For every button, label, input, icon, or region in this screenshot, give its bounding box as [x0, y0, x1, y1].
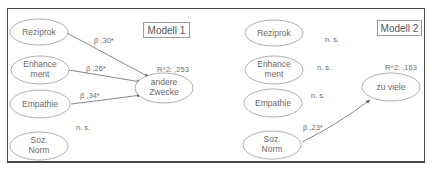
model-2-title: Modell 2 [377, 20, 422, 36]
path-diagram: Reziprok Enhance ment Empathie Soz. Norm… [0, 0, 433, 171]
svg-text:Soz.: Soz. [263, 134, 280, 144]
coef-enhancement: β ,26* [86, 64, 106, 73]
svg-text:ment: ment [265, 69, 285, 79]
svg-text:Reziprok: Reziprok [22, 27, 56, 37]
model-2: Reziprok Enhance ment Empathie Soz. Norm… [243, 20, 420, 159]
node-enhancement: Enhance ment [11, 56, 69, 84]
model-1-title: Modell 1 [143, 22, 190, 38]
arrow-soz-norm-to-zu-viele [302, 100, 370, 142]
node-zu-viele: zu viele [362, 73, 420, 101]
svg-text:Norm: Norm [29, 145, 50, 155]
node-soz-norm-2: Soz. Norm [243, 131, 301, 159]
svg-text:zu viele: zu viele [377, 82, 406, 92]
node-empathie: Empathie [10, 90, 70, 118]
svg-text:Soz.: Soz. [30, 135, 47, 145]
coef-enhancement-2: n. s. [317, 63, 331, 72]
svg-text:Norm: Norm [262, 144, 283, 154]
svg-text:Zwecke: Zwecke [149, 87, 179, 97]
svg-text:Enhance: Enhance [23, 59, 57, 69]
svg-text:Empathie: Empathie [22, 99, 58, 109]
model-1: Reziprok Enhance ment Empathie Soz. Norm… [10, 19, 193, 160]
r-squared-model-2: R^2: ,163 [385, 63, 417, 72]
coef-soz-norm-2: β ,23* [303, 123, 323, 132]
coef-reziprok: β ,30* [94, 36, 114, 45]
svg-text:ment: ment [31, 69, 51, 79]
r-squared-model-1: R^2: ,253 [157, 65, 189, 74]
node-soz-norm: Soz. Norm [10, 132, 68, 160]
node-reziprok-2: Reziprok [245, 20, 303, 46]
node-andere-zwecke: andere Zwecke [135, 73, 193, 103]
coef-soz-norm: n. s. [76, 123, 90, 132]
node-empathie-2: Empathie [244, 89, 302, 117]
coef-empathie-2: n. s. [311, 91, 325, 100]
coef-reziprok-2: n. s. [325, 35, 339, 44]
svg-text:andere: andere [151, 77, 178, 87]
svg-text:Reziprok: Reziprok [257, 28, 291, 38]
coef-empathie: β ,34* [80, 91, 100, 100]
svg-text:Empathie: Empathie [255, 98, 291, 108]
svg-text:Enhance: Enhance [257, 59, 291, 69]
node-enhancement-2: Enhance ment [245, 56, 303, 84]
node-reziprok: Reziprok [10, 19, 68, 45]
